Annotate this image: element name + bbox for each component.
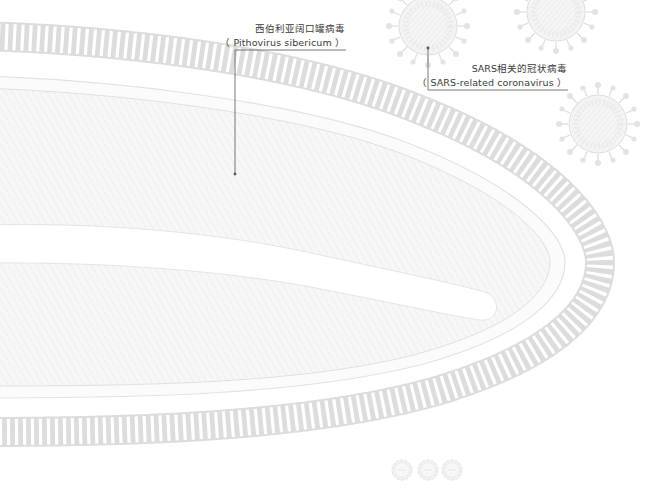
sars-scientific-name: （ SARS-related coronavirus ） [417, 76, 567, 90]
pithovirus-label: 西伯利亚阔口罐病毒 （ Pithovirus sibericum ） [220, 22, 345, 50]
sars-label: SARS相关的冠状病毒 （ SARS-related coronavirus ） [417, 62, 567, 90]
sars-chinese-name: SARS相关的冠状病毒 [417, 62, 567, 76]
pithovirus-chinese-name: 西伯利亚阔口罐病毒 [220, 22, 345, 36]
pithovirus-scientific-name: （ Pithovirus sibericum ） [220, 36, 345, 50]
pithovirus-particle [0, 36, 600, 432]
small-particles [392, 460, 462, 480]
